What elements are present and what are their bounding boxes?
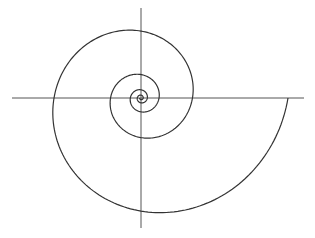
spiral-diagram xyxy=(0,0,315,238)
logarithmic-spiral-curve xyxy=(53,30,288,212)
